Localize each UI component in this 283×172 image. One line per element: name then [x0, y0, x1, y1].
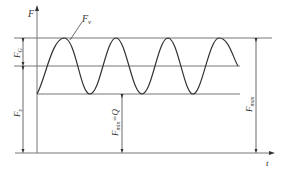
x-axis-label: t [266, 158, 269, 168]
fz-label: Fz [12, 109, 23, 119]
curve-label: Fv [81, 13, 92, 26]
fg-label: FG [12, 48, 23, 60]
fmin-label: Fmin=Q [110, 108, 121, 137]
load-diagram: F t Fv FG Fz Fmin=Q Fmax [0, 0, 283, 172]
fmax-label: Fmax [244, 96, 255, 113]
curve-leader [70, 22, 82, 40]
y-axis-label: F [27, 8, 35, 19]
